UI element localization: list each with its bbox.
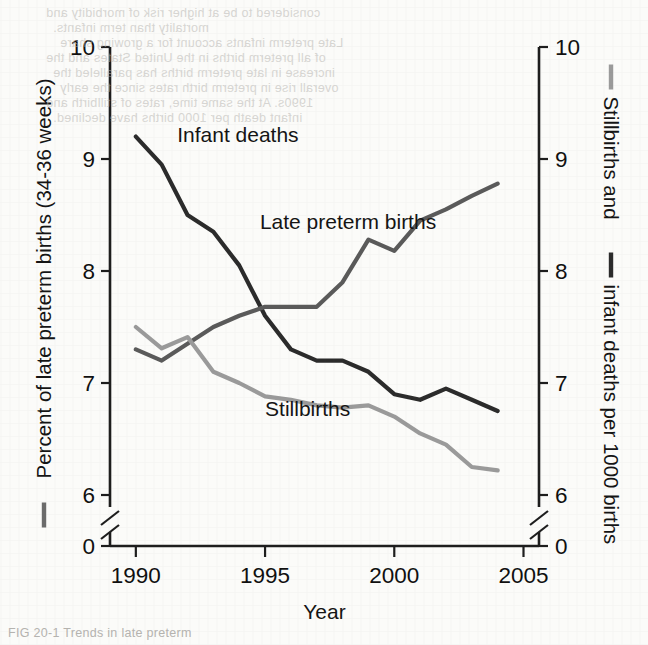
left-axis-break-slash-1 xyxy=(101,511,119,525)
right-axis-title-group: Stillbirths andinfant deaths per 1000 bi… xyxy=(600,65,623,545)
left-axis-title-group: Percent of late preterm births (34-36 we… xyxy=(32,79,55,528)
annotation-infant-deaths: Infant deaths xyxy=(177,123,298,146)
x-axis-ticks: 1990199520002005 xyxy=(111,546,549,588)
series-line-infant-deaths xyxy=(136,137,498,411)
x-tick-label: 2005 xyxy=(498,563,548,588)
y-tick-label-right: 7 xyxy=(555,371,568,396)
y-tick-label-left: 8 xyxy=(82,259,95,284)
y-tick-label-left: 0 xyxy=(82,534,95,559)
left-axis-title: Percent of late preterm births (34-36 we… xyxy=(32,79,55,479)
y-tick-label-right: 8 xyxy=(555,259,568,284)
axes xyxy=(101,47,548,546)
chart-canvas: 101099887766001990199520002005YearInfant… xyxy=(0,0,648,645)
right-axis-break-slash-1 xyxy=(530,511,548,525)
x-tick-label: 2000 xyxy=(369,563,419,588)
figure-container: 101099887766001990199520002005YearInfant… xyxy=(0,0,648,645)
y-tick-label-right: 6 xyxy=(555,483,568,508)
y-tick-label-left: 6 xyxy=(82,483,95,508)
right-axis-title-part2: infant deaths per 1000 births xyxy=(600,285,623,545)
series-group xyxy=(136,137,498,471)
right-axis-title-part1: Stillbirths and xyxy=(600,97,623,220)
y-tick-label-left: 10 xyxy=(70,35,95,60)
y-tick-label-left: 7 xyxy=(82,371,95,396)
line-chart: 101099887766001990199520002005YearInfant… xyxy=(0,0,648,645)
y-tick-label-left: 9 xyxy=(82,147,95,172)
y-tick-label-right: 0 xyxy=(555,534,568,559)
y-tick-label-right: 10 xyxy=(555,35,580,60)
x-tick-label: 1990 xyxy=(111,563,161,588)
y-tick-label-right: 9 xyxy=(555,147,568,172)
annotation-stillbirths: Stillbirths xyxy=(265,397,350,420)
x-tick-label: 1995 xyxy=(240,563,290,588)
x-axis-title: Year xyxy=(303,600,345,623)
annotation-late-preterm-births: Late preterm births xyxy=(260,210,436,233)
